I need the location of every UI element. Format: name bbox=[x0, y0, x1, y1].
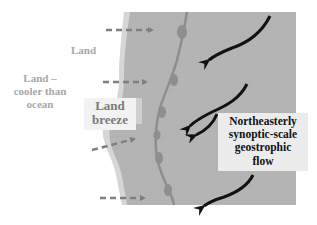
land-breeze-line-1: Land bbox=[84, 99, 136, 113]
flow-label-line-2: synoptic-scale bbox=[218, 128, 308, 141]
land-breeze-label: Land breeze bbox=[84, 98, 136, 130]
sea-breeze-diagram: Land Land – cooler than ocean Land breez… bbox=[0, 0, 317, 225]
front-bulge bbox=[164, 184, 172, 196]
front-bulge bbox=[158, 106, 166, 118]
front-bulge bbox=[154, 130, 161, 140]
front-bulge bbox=[155, 152, 163, 164]
geostrophic-flow-label: Northeasterly synoptic-scale geostrophic… bbox=[218, 113, 308, 171]
land-cooler-line-3: ocean bbox=[8, 98, 72, 111]
land-label: Land bbox=[71, 45, 96, 57]
flow-label-line-3: geostrophic bbox=[218, 141, 308, 154]
flow-label-line-1: Northeasterly bbox=[218, 115, 308, 128]
land-cooler-line-1: Land – bbox=[8, 72, 72, 85]
front-bulge bbox=[177, 25, 187, 39]
front-bulge bbox=[170, 74, 178, 86]
land-cooler-label: Land – cooler than ocean bbox=[8, 72, 72, 112]
land-label-text: Land bbox=[71, 44, 96, 56]
flow-label-line-4: flow bbox=[218, 155, 308, 168]
land-cooler-line-2: cooler than bbox=[8, 85, 72, 98]
land-breeze-line-2: breeze bbox=[84, 113, 136, 127]
